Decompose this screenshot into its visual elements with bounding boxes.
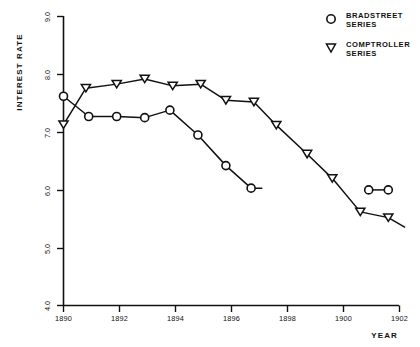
y-tick-label: 8.0 [43,70,52,80]
series-line-path [64,96,263,188]
data-point-circle [166,106,174,114]
x-tick-label: 1890 [55,314,72,323]
legend-label-comptroller-line1: COMPTROLLER [346,40,410,49]
data-point-circle [194,131,202,139]
legend-label-comptroller-line2: SERIES [346,49,377,58]
data-point-triangle [328,175,337,182]
x-axis-title: YEAR [371,331,398,340]
series-comptroller [59,75,405,227]
x-tick-label: 1896 [223,314,240,323]
data-point-triangle [59,121,68,128]
x-tick-label: 1902 [391,314,408,323]
data-point-circle [60,92,68,100]
x-tick-label: 1892 [111,314,128,323]
x-axis-ticks [64,306,400,313]
y-tick-label: 6.0 [43,186,52,196]
y-tick-label: 4.0 [43,301,52,311]
y-tick-label: 5.0 [43,244,52,254]
data-point-circle [222,162,230,170]
data-point-circle [365,186,373,194]
x-tick-label: 1894 [167,314,184,323]
plot-series-layer [59,75,405,227]
data-point-circle [384,186,392,194]
data-point-circle [85,112,93,120]
chart-container: 9.0 8.0 7.0 6.0 5.0 4.0 INTEREST RATE 18… [0,0,420,347]
legend-label-bradstreet-line1: BRADSTREET [346,11,403,20]
y-axis-title: INTEREST RATE [15,33,24,110]
data-point-circle [141,114,149,122]
data-point-circle [247,184,255,192]
y-axis-ticks [57,17,64,306]
x-tick-label: 1900 [335,314,352,323]
legend-label-bradstreet-line2: SERIES [346,20,377,29]
series-bradstreet [60,92,393,194]
legend-triangle-down-icon [327,44,336,52]
y-tick-label: 7.0 [43,128,52,138]
y-tick-label: 9.0 [43,12,52,22]
x-axis-tick-labels: 1890 1892 1894 1896 1898 1900 1902 [55,314,408,323]
legend-circle-icon [327,15,335,23]
data-point-circle [113,112,121,120]
series-line-path [64,79,406,228]
chart-legend: BRADSTREET SERIES COMPTROLLER SERIES [327,11,411,58]
x-tick-label: 1898 [279,314,296,323]
line-chart-canvas: 9.0 8.0 7.0 6.0 5.0 4.0 INTEREST RATE 18… [0,0,420,347]
y-axis-tick-labels: 9.0 8.0 7.0 6.0 5.0 4.0 [43,12,52,311]
